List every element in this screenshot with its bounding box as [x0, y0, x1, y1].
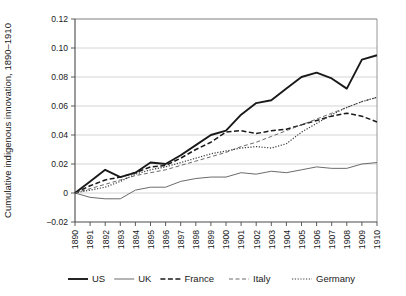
y-tick-label: 0.12 [51, 14, 68, 24]
x-tick-label: 1890 [70, 230, 80, 249]
x-tick-label: 1910 [372, 230, 382, 249]
x-tick-label: 1901 [236, 230, 246, 249]
x-tick-label: 1891 [85, 230, 95, 249]
y-axis-title: Cumulative indigenous innovation, 1890–1… [2, 23, 13, 218]
x-tick-label: 1897 [176, 230, 186, 249]
x-tick-label: 1907 [327, 230, 337, 249]
series-line-italy [75, 97, 377, 193]
x-tick-label: 1895 [146, 230, 156, 249]
x-tick-label: 1898 [191, 230, 201, 249]
legend-label-france: France [184, 273, 214, 284]
legend-label-italy: Italy [253, 273, 271, 284]
x-tick-label: 1900 [221, 230, 231, 249]
legend-label-germany: Germany [316, 273, 355, 284]
series-line-germany [75, 97, 377, 193]
y-tick-label: 0 [63, 188, 68, 198]
y-tick-label: −0.02 [46, 217, 68, 227]
x-tick-label: 1903 [267, 230, 277, 249]
y-tick-label: 0.04 [51, 130, 68, 140]
x-tick-label: 1896 [161, 230, 171, 249]
series-line-us [75, 55, 377, 193]
x-tick-label: 1899 [206, 230, 216, 249]
x-tick-label: 1905 [297, 230, 307, 249]
y-tick-label: 0.06 [51, 101, 68, 111]
x-tick-label: 1893 [116, 230, 126, 249]
x-tick-label: 1904 [282, 230, 292, 249]
legend-label-uk: UK [138, 273, 152, 284]
x-tick-label: 1902 [252, 230, 262, 249]
line-chart: −0.0200.020.040.060.080.100.121890189118… [0, 0, 406, 296]
x-tick-label: 1908 [342, 230, 352, 249]
y-tick-label: 0.02 [51, 159, 68, 169]
y-tick-label: 0.08 [51, 72, 68, 82]
y-tick-label: 0.10 [51, 43, 68, 53]
x-tick-label: 1894 [131, 230, 141, 249]
x-tick-label: 1906 [312, 230, 322, 249]
x-tick-label: 1909 [357, 230, 367, 249]
x-tick-label: 1892 [101, 230, 111, 249]
series-line-france [75, 113, 377, 193]
chart-figure: −0.0200.020.040.060.080.100.121890189118… [0, 0, 406, 296]
legend-label-us: US [92, 273, 105, 284]
